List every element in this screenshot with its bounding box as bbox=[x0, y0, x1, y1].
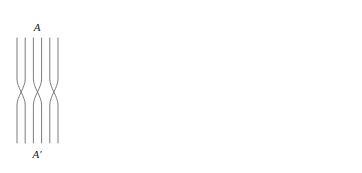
figure-canvas: AA′ bbox=[0, 0, 362, 173]
braid-A-strand bbox=[33, 38, 41, 143]
braid-A-top-label: A bbox=[33, 21, 41, 33]
braid-A-strand bbox=[50, 38, 58, 143]
braid-A-strand bbox=[50, 38, 58, 143]
braid-A-bottom-label: A′ bbox=[31, 148, 42, 160]
braid-A-strand bbox=[33, 38, 41, 143]
braid-A-strand bbox=[17, 38, 25, 143]
braid-A-strand bbox=[17, 38, 25, 143]
braid-figure: AA′ bbox=[0, 0, 362, 173]
